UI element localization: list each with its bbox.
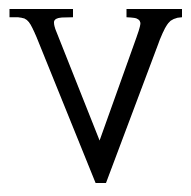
letter-v-glyph-svg: [0, 0, 191, 196]
glyph-canvas: V: [0, 0, 191, 196]
